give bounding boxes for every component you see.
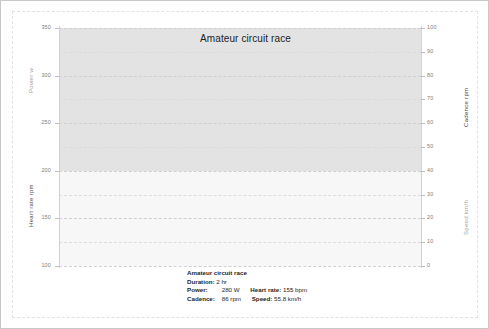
summary-speed-group: Speed: 55.8 km/h (252, 295, 302, 304)
right-axis-tick (421, 266, 425, 267)
summary-block: Amateur circuit race Duration: 2 hr Powe… (187, 269, 307, 303)
left-axis-line (59, 26, 60, 268)
right-axis-tick-label: 10 (427, 239, 433, 244)
right-axis-tick (421, 52, 425, 53)
left-axis-tick-label: 200 (41, 168, 51, 173)
right-axis-tick (421, 242, 425, 243)
left-axis-tick-label: 100 (41, 263, 51, 268)
left-axis-tick (55, 218, 59, 219)
gridline (59, 171, 421, 172)
summary-speed-label: Speed: (252, 295, 273, 302)
gridline (59, 99, 421, 100)
right-axis-tick (421, 76, 425, 77)
gridline (59, 242, 421, 243)
right-axis-tick (421, 28, 425, 29)
left-axis-tick (55, 266, 59, 267)
axis-title-cadence: Cadence rpm (463, 88, 469, 127)
left-axis-tick (55, 171, 59, 172)
plot-area (59, 28, 421, 266)
summary-heart-rate-value: 155 bpm (283, 286, 307, 293)
summary-duration-row: Duration: 2 hr (187, 278, 307, 287)
right-axis-tick-label: 50 (427, 144, 433, 149)
gridline (59, 52, 421, 53)
right-axis-tick-label: 20 (427, 215, 433, 220)
summary-power-label: Power: (187, 286, 220, 295)
right-axis-tick-label: 70 (427, 96, 433, 101)
summary-heading: Amateur circuit race (187, 269, 307, 278)
summary-duration-value: 2 hr (216, 278, 227, 285)
left-axis-tick-label: 350 (41, 25, 51, 30)
summary-cadence-label: Cadence: (187, 295, 220, 304)
right-axis-tick-label: 60 (427, 120, 433, 125)
summary-power-value: 280 W (222, 286, 240, 293)
right-axis-tick-label: 90 (427, 49, 433, 54)
gridline (59, 123, 421, 124)
right-axis-tick (421, 171, 425, 172)
summary-power-hr-row: Power: 280 W Heart rate: 155 bpm (187, 286, 307, 295)
chart-title: Amateur circuit race (1, 33, 489, 44)
right-axis-tick (421, 147, 425, 148)
summary-duration-label: Duration: (187, 278, 215, 285)
chart-canvas: 350300250200150100 100908070605040302010… (0, 0, 489, 329)
summary-heart-rate-group: Heart rate: 155 bpm (250, 286, 307, 295)
left-axis-tick-label: 300 (41, 73, 51, 78)
left-axis-tick-label: 150 (41, 215, 51, 220)
gridline (59, 195, 421, 196)
right-axis-tick-label: 30 (427, 192, 433, 197)
right-axis-tick (421, 195, 425, 196)
right-axis-tick-label: 80 (427, 73, 433, 78)
right-axis-tick-label: 100 (427, 25, 437, 30)
left-axis-tick-label: 250 (41, 120, 51, 125)
axis-title-heart-rate: Heart rate rpm (28, 184, 34, 227)
right-axis-tick-label: 40 (427, 168, 433, 173)
right-axis-tick (421, 123, 425, 124)
axis-title-speed: Speed km/h (463, 200, 469, 235)
gridline (59, 28, 421, 29)
axis-title-power: Power w (28, 68, 34, 93)
gridline (59, 76, 421, 77)
summary-cadence-value: 86 rpm (222, 295, 241, 302)
left-axis-tick (55, 76, 59, 77)
gridline (59, 266, 421, 267)
left-axis-tick (55, 123, 59, 124)
right-axis-tick-label: 0 (427, 263, 430, 268)
right-axis-tick (421, 218, 425, 219)
summary-heart-rate-label: Heart rate: (250, 286, 281, 293)
right-axis-tick (421, 99, 425, 100)
gridline (59, 147, 421, 148)
gridline (59, 218, 421, 219)
summary-speed-value: 55.8 km/h (274, 295, 301, 302)
left-axis-tick (55, 28, 59, 29)
summary-cadence-speed-row: Cadence: 86 rpm Speed: 55.8 km/h (187, 295, 307, 304)
